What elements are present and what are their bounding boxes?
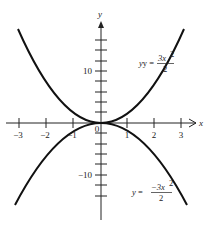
svg-text:3x: 3x [157, 53, 166, 63]
svg-text:−2: −2 [40, 130, 50, 140]
y-axis-label: y [97, 9, 102, 19]
y-tick-label-neg10: −10 [78, 170, 93, 180]
svg-text:3: 3 [179, 130, 184, 140]
x-tick-labels: −3 −2 −1 0 1 2 3 [13, 124, 184, 140]
x-axis-label: x [198, 118, 203, 128]
svg-text:1: 1 [125, 130, 130, 140]
svg-text:2: 2 [170, 49, 174, 59]
equation-label-negative: y = −3x 2 2 [131, 178, 173, 203]
svg-text:2: 2 [169, 178, 173, 188]
svg-text:yy =: yy = [138, 58, 154, 68]
svg-text:y =: y = [131, 187, 143, 197]
svg-text:−3x: −3x [151, 182, 165, 192]
parabola-chart: y x −3 −2 −1 0 1 2 3 10 −10 yy = 3x 2 2 … [0, 0, 206, 228]
svg-text:2: 2 [163, 64, 167, 74]
y-axis-arrow-icon [98, 21, 104, 28]
y-tick-label-10: 10 [83, 66, 93, 76]
svg-text:0: 0 [95, 124, 100, 134]
svg-text:−3: −3 [13, 130, 23, 140]
svg-text:2: 2 [159, 193, 163, 203]
svg-text:−1: −1 [67, 130, 77, 140]
svg-text:2: 2 [152, 130, 157, 140]
